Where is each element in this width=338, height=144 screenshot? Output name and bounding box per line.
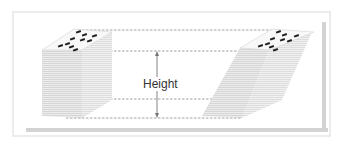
left-stack [42, 29, 112, 118]
height-label: Height [142, 77, 179, 91]
right-stack [202, 29, 314, 118]
diagram-stage: Height [0, 0, 338, 144]
stack-height-diagram [0, 0, 338, 144]
